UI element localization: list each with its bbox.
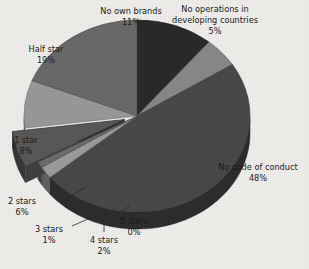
label-4-stars-pct: 2% <box>98 246 111 256</box>
label-1-star-pct: 8% <box>20 146 33 156</box>
label-half-star-pct: 19% <box>37 55 55 65</box>
label-no-own-brands-name: No own brands <box>100 6 161 16</box>
pie-chart-svg: No own brands 11% No operations in devel… <box>0 0 309 269</box>
label-5-stars-pct: 0% <box>128 227 141 237</box>
label-3-stars-pct: 1% <box>43 235 56 245</box>
label-half-star-name: Half star <box>29 44 64 54</box>
label-no-operations-line2: developing countries <box>172 15 258 25</box>
label-2-stars-name: 2 stars <box>8 196 36 206</box>
pie-chart-figure: No own brands 11% No operations in devel… <box>0 0 309 269</box>
label-no-own-brands-pct: 11% <box>122 17 140 27</box>
label-5-stars-name: 5 stars <box>120 216 148 226</box>
label-3-stars-name: 3 stars <box>35 224 63 234</box>
label-no-code-pct: 48% <box>249 173 267 183</box>
label-no-operations-pct: 5% <box>209 26 222 36</box>
label-no-code-name: No code of conduct <box>218 162 298 172</box>
label-2-stars-pct: 6% <box>16 207 29 217</box>
label-no-operations-line1: No operations in <box>181 4 248 14</box>
label-1-star-name: 1 star <box>14 135 38 145</box>
label-4-stars-name: 4 stars <box>90 235 118 245</box>
